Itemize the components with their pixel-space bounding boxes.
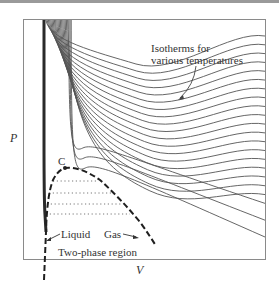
liquid-line [44,20,46,232]
isotherm-curve [58,20,265,139]
pv-diagram [0,0,279,287]
isotherms-label-line1: Isotherms for [151,42,210,54]
y-axis-label: P [10,132,17,144]
two-phase-label: Two-phase region [58,246,137,258]
liquid-label: Liquid [61,228,90,240]
gas-label: Gas [104,228,121,240]
isotherm-curve [56,20,265,124]
x-axis-label: V [136,264,143,276]
critical-point-label: C [58,155,65,167]
isotherms-label-line2: various temperatures [151,54,243,66]
